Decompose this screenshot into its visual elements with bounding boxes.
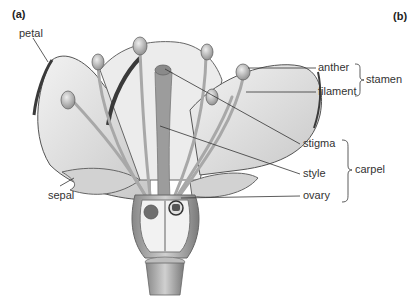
stigma: [155, 65, 171, 75]
stem: [146, 263, 184, 295]
ovule-left: [144, 205, 158, 219]
label-filament: filament: [318, 86, 357, 97]
label-petal: petal: [19, 28, 43, 39]
label-anther: anther: [318, 62, 349, 73]
label-carpel: carpel: [355, 164, 385, 175]
flower-diagram: [0, 0, 410, 297]
label-ovary: ovary: [303, 190, 330, 201]
label-sepal: sepal: [48, 190, 74, 201]
style: [155, 72, 172, 200]
label-style: style: [303, 168, 326, 179]
label-stigma: stigma: [303, 138, 335, 149]
label-stamen: stamen: [366, 74, 402, 85]
